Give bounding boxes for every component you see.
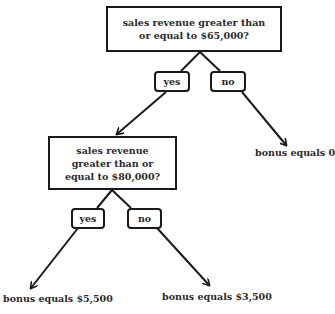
edge-q2-yes xyxy=(97,190,112,208)
decision-node-revenue-80000: sales revenue greater than or equal to $… xyxy=(48,136,177,190)
edge-q2-no xyxy=(112,190,131,208)
edge-q1-yes xyxy=(181,52,200,71)
arrow-no-to-bonus-3500 xyxy=(157,228,209,285)
branch-label: no xyxy=(138,213,151,224)
arrow-yes-to-bonus-5500 xyxy=(31,228,78,288)
decision-label: sales revenue greater than or equal to $… xyxy=(122,16,266,42)
branch-yes-2: yes xyxy=(71,208,105,229)
decision-node-revenue-65000: sales revenue greater than or equal to $… xyxy=(106,6,282,52)
arrow-yes-to-q2 xyxy=(117,92,166,134)
branch-label: yes xyxy=(164,76,181,87)
edge-q1-no xyxy=(200,52,220,71)
decision-label: sales revenue greater than or equal to $… xyxy=(58,144,167,183)
branch-label: no xyxy=(221,76,234,87)
arrow-no-to-bonus-zero xyxy=(242,92,286,145)
outcome-bonus-5500: bonus equals $5,500 xyxy=(3,293,113,304)
branch-yes-1: yes xyxy=(154,71,190,92)
outcome-bonus-zero: bonus equals 0 xyxy=(255,147,335,158)
branch-label: yes xyxy=(80,213,97,224)
branch-no-2: no xyxy=(127,208,162,229)
outcome-bonus-3500: bonus equals $3,500 xyxy=(162,291,272,302)
branch-no-1: no xyxy=(210,71,246,92)
